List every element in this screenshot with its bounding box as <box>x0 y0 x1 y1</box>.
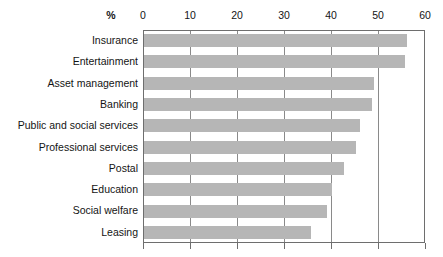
bar-0 <box>144 34 407 47</box>
chart-row: Entertainment <box>0 51 443 72</box>
category-label-2: Asset management <box>0 73 138 94</box>
bar-1 <box>144 55 405 68</box>
x-tick-label-20: 20 <box>222 8 252 22</box>
category-label-9: Leasing <box>0 222 138 243</box>
chart-row: Insurance <box>0 30 443 51</box>
category-label-0: Insurance <box>0 30 138 51</box>
x-tick-mark-60 <box>425 243 426 249</box>
chart-row: Social welfare <box>0 200 443 221</box>
x-tick-label-60: 60 <box>410 8 440 22</box>
x-tick-label-50: 50 <box>363 8 393 22</box>
bar-3 <box>144 98 372 111</box>
category-label-6: Postal <box>0 158 138 179</box>
x-tick-mark-0 <box>143 243 144 249</box>
chart-row: Education <box>0 179 443 200</box>
chart-row: Professional services <box>0 137 443 158</box>
chart-row: Leasing <box>0 222 443 243</box>
chart-row: Public and social services <box>0 115 443 136</box>
bar-8 <box>144 205 327 218</box>
bar-9 <box>144 226 311 239</box>
x-axis-header: % 0102030405060 <box>0 8 443 24</box>
chart-rows: InsuranceEntertainmentAsset managementBa… <box>0 30 443 243</box>
x-tick-mark-40 <box>331 243 332 249</box>
chart-row: Postal <box>0 158 443 179</box>
x-tick-mark-20 <box>237 243 238 249</box>
bar-7 <box>144 183 332 196</box>
x-tick-mark-10 <box>190 243 191 249</box>
category-label-4: Public and social services <box>0 115 138 136</box>
x-tick-label-0: 0 <box>128 8 158 22</box>
category-label-3: Banking <box>0 94 138 115</box>
x-tick-label-40: 40 <box>316 8 346 22</box>
bar-6 <box>144 162 344 175</box>
chart-row: Banking <box>0 94 443 115</box>
category-label-8: Social welfare <box>0 200 138 221</box>
category-label-5: Professional services <box>0 137 138 158</box>
x-tick-mark-30 <box>284 243 285 249</box>
bar-2 <box>144 77 374 90</box>
chart-row: Asset management <box>0 73 443 94</box>
category-label-1: Entertainment <box>0 51 138 72</box>
bar-chart: % 0102030405060 InsuranceEntertainmentAs… <box>0 0 443 257</box>
x-tick-label-30: 30 <box>269 8 299 22</box>
x-tick-mark-50 <box>378 243 379 249</box>
category-label-7: Education <box>0 179 138 200</box>
bar-4 <box>144 119 360 132</box>
x-axis-unit-label: % <box>100 8 122 22</box>
x-tick-label-10: 10 <box>175 8 205 22</box>
bar-5 <box>144 141 356 154</box>
